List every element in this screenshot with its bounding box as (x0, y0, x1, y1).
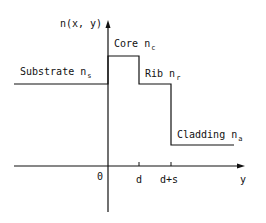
x-axis-label: y (240, 175, 246, 185)
tick-label-0: 0 (97, 172, 103, 182)
horizontal-axis-arrow-icon (237, 164, 245, 169)
tick-label-d-plus-s: d+s (160, 175, 178, 185)
refractive-index-profile-diagram: n(x, y) Core nc Substrate ns Rib nr Clad… (0, 0, 266, 223)
cladding-label: Cladding na (177, 130, 242, 140)
substrate-label: Substrate ns (20, 67, 91, 77)
y-axis-label: n(x, y) (60, 19, 102, 29)
vertical-axis-arrow-icon (106, 20, 111, 28)
profile-plot (0, 0, 266, 223)
tick-label-d: d (136, 175, 142, 185)
core-label: Core nc (114, 39, 155, 49)
rib-label: Rib nr (145, 69, 180, 79)
